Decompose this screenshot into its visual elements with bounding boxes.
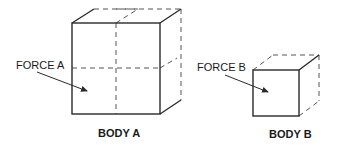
force-b-arrow — [225, 75, 268, 92]
force-b-label: FORCE B — [197, 62, 246, 73]
force-a-arrow — [37, 72, 87, 91]
force-a-label: FORCE A — [16, 60, 64, 71]
body-b-label: BODY B — [269, 129, 312, 140]
body-a-label: BODY A — [98, 128, 140, 139]
